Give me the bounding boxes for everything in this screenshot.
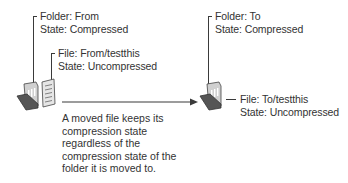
destination-folder-label: Folder: To State: Compressed	[215, 10, 303, 35]
destination-folder-name: Folder: To	[215, 10, 303, 23]
note-line: folder it is moved to.	[62, 162, 192, 175]
note-line: compression state of the	[62, 150, 192, 163]
destination-folder-icon	[200, 82, 221, 110]
source-folder-name: Folder: From	[40, 10, 128, 23]
source-file-callout	[52, 53, 56, 80]
destination-folder-state: State: Compressed	[215, 23, 303, 36]
destination-folder-callout	[209, 16, 213, 86]
source-file-icon	[42, 79, 55, 107]
source-folder-callout	[34, 16, 38, 86]
note-line: regardless of the	[62, 137, 192, 150]
note-line: A moved file keeps its	[62, 112, 192, 125]
source-file-state: State: Uncompressed	[58, 60, 157, 73]
source-folder-icon	[17, 82, 38, 110]
destination-file-label: File: To/testthis State: Uncompressed	[240, 93, 339, 118]
note-line: compression state	[62, 125, 192, 138]
explanation-note: A moved file keeps its compression state…	[62, 112, 192, 175]
destination-file-name: File: To/testthis	[240, 93, 339, 106]
source-file-label: File: From/testthis State: Uncompressed	[58, 47, 157, 72]
source-folder-state: State: Compressed	[40, 23, 128, 36]
move-arrow-icon	[62, 99, 198, 106]
source-folder-label: Folder: From State: Compressed	[40, 10, 128, 35]
source-file-name: File: From/testthis	[58, 47, 157, 60]
destination-file-state: State: Uncompressed	[240, 106, 339, 119]
